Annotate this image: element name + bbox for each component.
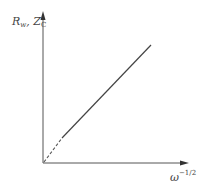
x-axis-arrow-icon [180,161,189,166]
y-axis-label: Rw, ZC [11,15,46,29]
x-axis-label: ω−1/2 [170,169,196,184]
data-line [62,45,151,138]
y-axis-arrow-icon [41,11,46,20]
diagram-canvas: Rw, ZC ω−1/2 [0,0,203,188]
extrapolation-dashed-line [44,138,62,162]
